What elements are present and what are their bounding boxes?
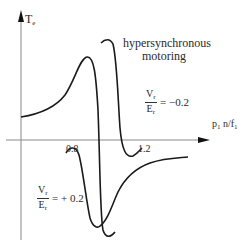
ratio-pos-denominator: Er [37, 199, 49, 212]
annotation-hypersynchronous: hypersynchronous [123, 37, 211, 49]
y-axis-label: Te [25, 13, 35, 27]
ratio-neg-denominator: Er [145, 103, 157, 116]
ratio-pos-num-sub: r [45, 189, 47, 197]
x-axis-label-sub2: 1 [234, 123, 238, 131]
curve-vr-minus-0-2 [101, 40, 142, 157]
ratio-neg-num-sub: r [153, 93, 155, 101]
y-axis-label-sub: e [32, 19, 35, 27]
ratio-pos-value: = + 0.2 [52, 193, 84, 204]
ratio-pos-den-sub: r [45, 204, 47, 212]
x-axis-label: p1 n/f1 [212, 119, 238, 131]
ratio-pos-numerator: Vr [37, 185, 49, 199]
tick-label-1-2: 1.2 [138, 144, 151, 154]
y-axis-arrow-icon [18, 10, 24, 22]
annotation-motoring: motoring [142, 50, 186, 62]
ratio-neg-fraction: Vr Er [145, 89, 157, 116]
curve-vr-plus-0-2 [66, 148, 188, 227]
x-axis-label-mid: n/f [221, 118, 235, 129]
ratio-neg-numerator: Vr [145, 89, 157, 103]
ratio-pos-fraction: Vr Er [37, 185, 49, 212]
tick-label-0-8: 0.8 [66, 144, 79, 154]
ratio-neg-value: = −0.2 [160, 97, 189, 108]
x-axis-arrow-icon [198, 137, 210, 143]
ratio-neg-den-sub: r [153, 108, 155, 116]
